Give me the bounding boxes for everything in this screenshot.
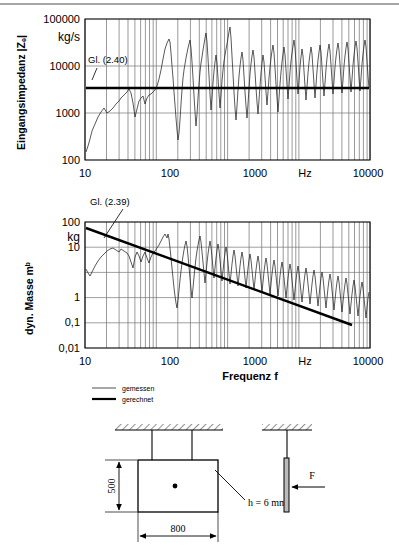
chart2-xtick-10000: 10000 xyxy=(353,355,384,367)
chart1-ytick-100: 100 xyxy=(62,154,80,166)
chart2-xunit: Hz xyxy=(298,355,311,367)
chart1-xtick-10: 10 xyxy=(79,167,91,179)
chart1-xunit: Hz xyxy=(298,167,311,179)
chart1-xtick-100: 100 xyxy=(161,167,179,179)
chart2-ytick-10: 10 xyxy=(68,241,80,253)
chart1-annotation-label: Gl. (2.40) xyxy=(88,54,128,65)
chart1-yunit: kg/s xyxy=(58,30,80,44)
thickness-label: h = 6 mm xyxy=(248,497,287,508)
chart2-ytick-0-1: 0,1 xyxy=(65,316,80,328)
figure-svg: Gl. (2.40) 100000 kg/s 10000 1000 100 10… xyxy=(0,0,399,551)
width-dimension-label: 800 xyxy=(171,523,186,534)
front-ceiling-hatch xyxy=(115,424,223,430)
height-dimension-label: 500 xyxy=(106,479,117,494)
chart2-xtick-100: 100 xyxy=(161,355,179,367)
chart2-xaxis-title: Frequenz f xyxy=(222,370,278,382)
chart1-xtick-10000: 10000 xyxy=(353,167,384,179)
chart1-xtick-1000: 1000 xyxy=(243,167,267,179)
chart2-yaxis-title: dyn. Masse mᵇ xyxy=(23,262,35,335)
side-plate-edge xyxy=(284,458,289,512)
chart2-ytick-1: 1 xyxy=(74,291,80,303)
chart2-xtick-10: 10 xyxy=(79,355,91,367)
chart1-ytick-1000: 1000 xyxy=(56,107,80,119)
side-ceiling-hatch xyxy=(262,424,312,430)
chart2-xtick-1000: 1000 xyxy=(243,355,267,367)
chart1-yaxis-title: Eingangsimpedanz |Zₑ| xyxy=(15,35,27,150)
force-label: F xyxy=(309,470,315,481)
chart1-ytick-10000: 10000 xyxy=(49,60,80,72)
chart1-ytick-100000: 100000 xyxy=(43,13,80,25)
legend-label-gerechnet: gerechnet xyxy=(122,396,153,404)
chart2-ytick-100: 100 xyxy=(62,216,80,228)
chart2-ytick-0-01: 0,01 xyxy=(59,342,80,354)
chart2-annotation-label: Gl. (2.39) xyxy=(90,196,130,207)
figure-root: Gl. (2.40) 100000 kg/s 10000 1000 100 10… xyxy=(0,0,399,551)
legend-label-gemessen: gemessen xyxy=(122,385,154,393)
drive-point-marker xyxy=(173,484,178,489)
